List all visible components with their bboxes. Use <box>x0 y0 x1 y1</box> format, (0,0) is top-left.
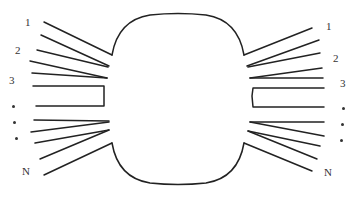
right-port-lines <box>244 28 324 171</box>
diagram-canvas <box>0 0 356 197</box>
right-ellipsis-dot <box>342 107 345 110</box>
left-port-lines <box>30 22 112 175</box>
right-port-label-1: 1 <box>326 21 332 32</box>
left-port-label-1: 1 <box>25 17 31 28</box>
left-ellipsis-dot <box>15 137 18 140</box>
right-port-label-3: 3 <box>340 78 346 89</box>
left-port-label-2: 2 <box>15 45 21 56</box>
right-ellipsis-dot <box>340 139 343 142</box>
left-ellipsis-dot <box>13 121 16 124</box>
left-ellipsis-dot <box>12 105 15 108</box>
central-region-outline <box>112 14 244 185</box>
left-port-label-3: 3 <box>9 75 15 86</box>
right-port-label-n: N <box>324 167 332 178</box>
right-port-label-2: 2 <box>333 53 339 64</box>
left-port-label-n: N <box>22 166 30 177</box>
right-ellipsis-dot <box>341 123 344 126</box>
